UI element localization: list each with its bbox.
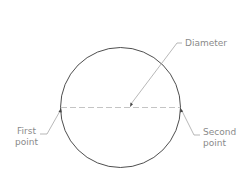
diameter-leader-line: [131, 43, 182, 104]
diameter-circle-diagram: Diameter First point Second point: [0, 0, 250, 180]
second-point-leader-line: [182, 111, 200, 135]
second-point-label-line2: point: [203, 138, 226, 148]
first-point-label-line1: First: [17, 126, 36, 136]
first-point-label-line2: point: [15, 137, 38, 147]
second-point-label-line1: Second: [203, 127, 236, 137]
diameter-label: Diameter: [185, 38, 227, 48]
first-point-leader-line: [40, 111, 60, 134]
